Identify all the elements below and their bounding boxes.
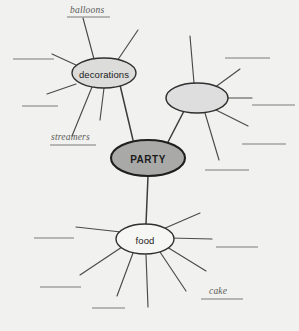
food-label: food — [136, 235, 155, 246]
trunk-party-to-food — [146, 176, 148, 224]
spoke-decorations-4 — [47, 84, 76, 94]
spoke-blank-branch-4 — [216, 110, 248, 126]
trunk-blank-branch-to-party — [168, 111, 184, 142]
spoke-food-6 — [160, 252, 186, 291]
concept-map-worksheet: decorations food PARTY balloons streamer… — [0, 0, 299, 331]
blank-branch-ellipse[interactable] — [166, 83, 228, 113]
spoke-blank-branch-1 — [190, 36, 194, 83]
spoke-food-3 — [80, 247, 122, 275]
trunk-decorations-to-party — [120, 85, 133, 140]
node-decorations[interactable]: decorations — [72, 58, 136, 88]
spoke-food-2 — [170, 238, 212, 239]
spoke-blank-branch-5 — [205, 113, 219, 160]
filled-label-cake: cake — [209, 286, 227, 296]
spoke-food-8 — [163, 213, 200, 229]
spoke-decorations-5 — [72, 87, 92, 136]
spoke-decorations-2 — [117, 30, 138, 61]
concept-map-canvas: decorations food PARTY — [0, 0, 299, 331]
node-center-party[interactable]: PARTY — [111, 140, 185, 176]
party-label: PARTY — [130, 154, 166, 165]
spoke-decorations-1 — [83, 18, 94, 59]
spoke-food-4 — [117, 253, 133, 296]
node-blank-branch[interactable] — [166, 83, 228, 113]
node-food[interactable]: food — [116, 224, 174, 254]
decorations-label: decorations — [79, 69, 129, 80]
spoke-food-1 — [76, 227, 121, 232]
spoke-decorations-6 — [100, 88, 104, 120]
spoke-food-5 — [146, 255, 148, 307]
filled-label-streamers: streamers — [51, 132, 90, 142]
spoke-blank-branch-2 — [214, 69, 240, 88]
spoke-food-7 — [167, 247, 206, 271]
spoke-decorations-3 — [52, 54, 76, 65]
filled-label-balloons: balloons — [70, 5, 104, 15]
